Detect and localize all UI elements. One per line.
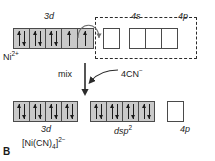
orbital-box[interactable]: [13, 28, 30, 49]
spin-down-arrow-icon: [147, 104, 152, 119]
spin-down-arrow-icon: [70, 104, 75, 119]
orbital-box[interactable]: [90, 101, 107, 122]
orbital-box[interactable]: [45, 101, 62, 122]
ligand-label: 4CN−: [121, 67, 143, 79]
orbital-box[interactable]: [13, 101, 30, 122]
orbital-hybridization-diagram: 3d 4s 4p Ni2+ mix 4CN−: [0, 0, 215, 161]
ligand-attack-arrow: [91, 70, 118, 81]
spin-down-arrow-icon: [54, 104, 59, 119]
orbital-box[interactable]: [29, 101, 46, 122]
spin-down-arrow-icon: [115, 104, 120, 119]
bottom-dsp2-label: dsp2: [114, 124, 132, 136]
spin-pair: [94, 104, 104, 119]
bottom-orbital-row: [13, 101, 184, 122]
panel-label: B: [3, 146, 10, 157]
orbital-box[interactable]: [77, 28, 94, 49]
bottom-3d-group: [13, 101, 78, 122]
orbital-box[interactable]: [145, 28, 162, 49]
orbital-box[interactable]: [167, 101, 184, 122]
spin-pair: [17, 104, 27, 119]
bottom-4p-label: 4p: [180, 124, 190, 134]
orbital-box[interactable]: [45, 28, 62, 49]
bottom-4p-group: [167, 101, 184, 122]
spin-pair: [49, 104, 59, 119]
top-orbital-row: [13, 28, 178, 49]
orbital-box[interactable]: [161, 28, 178, 49]
spin-single: [67, 31, 72, 46]
spin-pair: [49, 31, 59, 46]
orbital-box[interactable]: [106, 101, 123, 122]
spin-down-arrow-icon: [54, 31, 59, 46]
orbital-box[interactable]: [29, 28, 46, 49]
mix-arrow-head-icon: [81, 89, 88, 96]
spin-pair: [65, 104, 75, 119]
spin-pair: [142, 104, 152, 119]
spin-pair: [110, 104, 120, 119]
spin-down-arrow-icon: [22, 104, 27, 119]
bottom-dsp2-group: [90, 101, 155, 122]
complex-label: [Ni(CN)4]2−: [22, 136, 66, 150]
orbital-box[interactable]: [61, 101, 78, 122]
spin-down-arrow-icon: [22, 31, 27, 46]
top-3d-label: 3d: [44, 11, 54, 21]
orbital-box[interactable]: [61, 28, 78, 49]
orbital-box[interactable]: [129, 28, 146, 49]
mix-label: mix: [58, 69, 72, 79]
spin-pair: [33, 104, 43, 119]
top-3d-group: [13, 28, 94, 49]
bottom-3d-label: 3d: [41, 124, 51, 134]
spin-down-arrow-icon: [38, 31, 43, 46]
spin-pair: [126, 104, 136, 119]
spin-up-arrow-icon: [83, 31, 88, 46]
spin-up-arrow-icon: [67, 31, 72, 46]
orbital-box[interactable]: [122, 101, 139, 122]
spin-down-arrow-icon: [99, 104, 104, 119]
orbital-box[interactable]: [103, 28, 120, 49]
spin-single: [83, 31, 88, 46]
spin-pair: [33, 31, 43, 46]
top-4s-group: [103, 28, 120, 49]
ion-label: Ni2+: [3, 50, 19, 62]
orbital-box[interactable]: [138, 101, 155, 122]
spin-pair: [17, 31, 27, 46]
spin-down-arrow-icon: [131, 104, 136, 119]
top-4p-group: [129, 28, 178, 49]
spin-down-arrow-icon: [38, 104, 43, 119]
